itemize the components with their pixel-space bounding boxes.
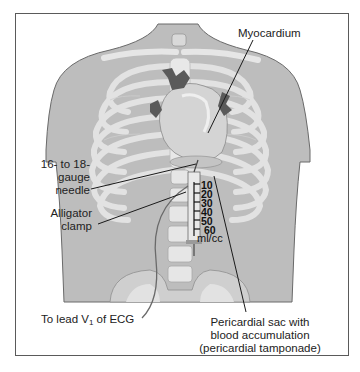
label-myocardium: Myocardium xyxy=(238,27,301,40)
cervical-vertebra xyxy=(172,34,186,46)
syringe-unit: ml/cc xyxy=(197,234,223,243)
label-pericardial-sac: Pericardial sac with blood accumulation … xyxy=(190,316,330,355)
label-needle: 16- to 18- gauge needle xyxy=(30,158,90,197)
label-ecg-lead: To lead V1 of ECG xyxy=(41,313,134,329)
label-alligator-clamp: Alligator clamp xyxy=(30,207,92,233)
syringe-scale: 10 20 30 40 50 60 xyxy=(201,181,216,235)
